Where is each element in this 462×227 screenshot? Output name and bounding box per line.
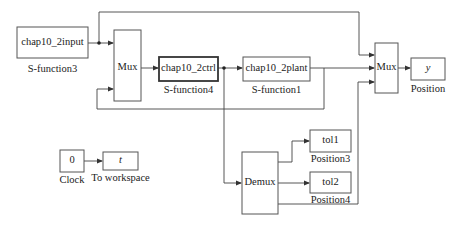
arrowhead — [236, 181, 242, 186]
arrowhead — [108, 87, 114, 92]
block-demux[interactable]: Demux — [242, 152, 278, 214]
arrowhead — [369, 66, 375, 71]
block-text: Mux — [377, 61, 398, 72]
block-text: y — [425, 62, 431, 73]
block-text: tol1 — [322, 134, 338, 145]
block-text: 0 — [69, 154, 74, 165]
branch-point — [222, 66, 226, 70]
wire-demux-to-tol1[interactable] — [278, 141, 309, 162]
arrowhead — [369, 80, 375, 85]
block-label: Clock — [59, 174, 85, 185]
block-text: Mux — [118, 61, 139, 72]
block-sfunction3[interactable]: chap10_2input S-function3 — [17, 27, 88, 74]
block-label: Position4 — [311, 194, 351, 205]
block-to-workspace[interactable]: t To workspace — [91, 152, 150, 183]
block-clock[interactable]: 0 Clock — [59, 150, 85, 185]
arrowhead — [304, 181, 310, 186]
branch-point — [97, 41, 101, 45]
block-text: chap10_2plant — [246, 62, 308, 73]
block-text: Demux — [245, 176, 277, 187]
wire-ctrl-to-demux[interactable] — [224, 68, 241, 183]
arrowhead — [108, 41, 114, 46]
block-text: chap10_2input — [21, 36, 83, 47]
block-tol2[interactable]: tol2 Position4 — [310, 172, 351, 205]
arrowhead — [304, 139, 310, 144]
block-tol1[interactable]: tol1 Position3 — [310, 130, 351, 164]
block-text: tol2 — [322, 176, 338, 187]
block-mux1[interactable]: Mux — [114, 30, 141, 101]
block-label: S-function4 — [164, 84, 214, 95]
arrowhead — [369, 53, 375, 58]
block-label: Position3 — [311, 153, 351, 164]
block-label: To workspace — [91, 172, 150, 183]
block-mux2[interactable]: Mux — [375, 43, 398, 93]
block-diagram-canvas: chap10_2input S-function3 Mux chap10_2ct… — [0, 0, 462, 227]
block-label: Position — [411, 83, 446, 94]
block-sfunction1[interactable]: chap10_2plant S-function1 — [243, 57, 310, 95]
block-text: chap10_2ctrl — [161, 62, 216, 73]
block-output-y[interactable]: y Position — [411, 58, 446, 94]
arrowhead — [405, 66, 411, 71]
arrowhead — [237, 66, 243, 71]
block-label: S-function1 — [252, 84, 302, 95]
block-label: S-function3 — [28, 63, 78, 74]
block-sfunction4[interactable]: chap10_2ctrl S-function4 — [159, 57, 218, 95]
arrowhead — [97, 159, 103, 164]
